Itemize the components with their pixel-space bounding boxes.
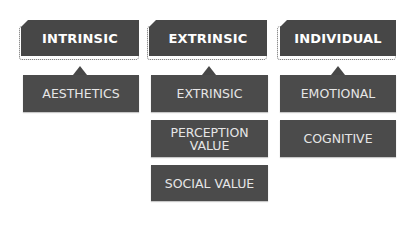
- node-emotional: EMOTIONAL: [280, 75, 396, 112]
- node-extrinsic: EXTRINSIC: [151, 75, 268, 112]
- header-label: INDIVIDUAL: [294, 31, 382, 46]
- header-intrinsic: INTRINSIC: [21, 20, 139, 56]
- node-cognitive: COGNITIVE: [280, 120, 396, 157]
- arrow-up-icon: [331, 66, 345, 75]
- header-label: INTRINSIC: [42, 31, 118, 46]
- arrow-up-icon: [202, 66, 216, 75]
- header-individual: INDIVIDUAL: [280, 20, 396, 56]
- node-aesthetics: AESTHETICS: [23, 75, 139, 112]
- arrow-up-icon: [73, 66, 87, 75]
- node-social-value: SOCIAL VALUE: [151, 165, 268, 201]
- node-perception-value: PERCEPTION VALUE: [151, 120, 268, 157]
- header-label: EXTRINSIC: [168, 31, 247, 46]
- header-extrinsic: EXTRINSIC: [149, 20, 267, 56]
